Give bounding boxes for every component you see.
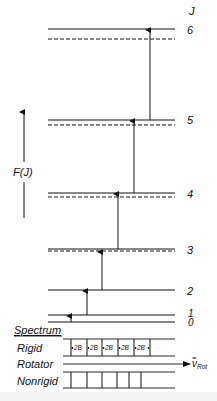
spacing-label-2b: 2B [120, 344, 130, 351]
transitions [71, 30, 150, 322]
nonrigid-spectrum [63, 372, 175, 388]
level-j5: 5 [48, 114, 194, 126]
level-j3: 3 [48, 244, 194, 256]
footer-band [0, 392, 217, 401]
level-j2: 2 [48, 285, 193, 297]
level-j0: 0 [48, 317, 194, 328]
energy-axis: F(J) [13, 112, 33, 218]
spacing-label-2b: 2B [104, 344, 114, 351]
level-label-j4: 4 [187, 188, 193, 200]
level-j4: 4 [48, 188, 193, 200]
spacing-label-2b: 2B [136, 344, 146, 351]
rigid-spectrum: 2B 2B 2B 2B 2B [63, 339, 175, 356]
wavenumber-axis-label: ν̃Rot [192, 357, 208, 370]
level-j6: 6 [48, 24, 194, 39]
level-label-j5: 5 [187, 114, 194, 126]
wavenumber-axis: ν̃Rot [63, 357, 208, 370]
spacing-label-2b: 2B [73, 344, 83, 351]
j-header-label: J [188, 5, 195, 17]
level-label-j0: 0 [188, 317, 194, 328]
energy-levels: 6 5 4 3 2 1 [48, 24, 194, 328]
energy-axis-label: F(J) [13, 166, 33, 178]
spectrum-section: Spectrum Rigid Rotator Nonrigid 2B 2B 2B… [14, 324, 208, 388]
level-j1: 1 [48, 308, 194, 319]
spectrum-row-label-rigid: Rigid [17, 342, 43, 354]
spectrum-title: Spectrum [14, 324, 61, 336]
spectrum-row-label-rotator: Rotator [17, 358, 54, 370]
level-label-j2: 2 [186, 285, 193, 297]
spectrum-row-label-nonrigid: Nonrigid [17, 375, 59, 387]
spacing-label-2b: 2B [89, 344, 99, 351]
level-label-j6: 6 [187, 24, 194, 36]
energy-level-diagram: J F(J) 6 5 4 3 [0, 0, 217, 401]
level-label-j3: 3 [187, 244, 194, 256]
